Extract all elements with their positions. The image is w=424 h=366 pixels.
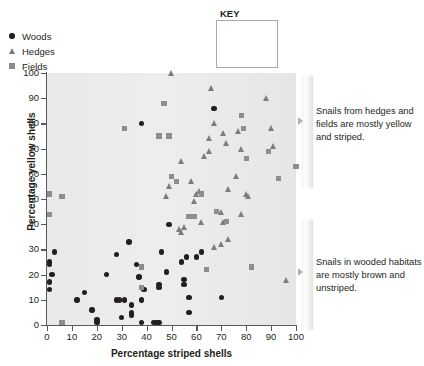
x-tick xyxy=(246,326,247,331)
x-tick xyxy=(122,326,123,331)
x-tick-label: 20 xyxy=(85,332,109,342)
x-tick-label: 60 xyxy=(184,332,208,342)
x-tick xyxy=(147,326,148,331)
x-tick xyxy=(196,326,197,331)
x-tick xyxy=(221,326,222,331)
x-tick-label: 70 xyxy=(209,332,233,342)
legend-item-fields[interactable]: Fields xyxy=(6,60,47,72)
x-tick-label: 40 xyxy=(135,332,159,342)
square-icon xyxy=(6,63,18,68)
y-tick xyxy=(41,249,46,250)
y-tick xyxy=(41,199,46,200)
x-tick xyxy=(296,326,297,331)
annotation-hedges-fields: Snails from hedges and fields are mostly… xyxy=(316,105,424,144)
y-tick xyxy=(41,149,46,150)
x-tick-label: 80 xyxy=(234,332,258,342)
circle-icon xyxy=(6,33,18,38)
y-tick xyxy=(41,275,46,276)
y-tick xyxy=(41,98,46,99)
annotation-woods: Snails in wooded habitats are mostly bro… xyxy=(316,256,424,295)
legend-box xyxy=(216,20,278,68)
y-tick xyxy=(41,300,46,301)
legend-item-woods[interactable]: Woods xyxy=(6,30,51,42)
x-tick xyxy=(97,326,98,331)
x-tick xyxy=(72,326,73,331)
plot-area xyxy=(47,73,296,325)
x-tick-label: 90 xyxy=(259,332,283,342)
callout-arrow-bottom xyxy=(298,268,303,276)
legend-item-label: Fields xyxy=(22,61,47,72)
y-tick-label: 10 xyxy=(13,295,39,305)
y-tick xyxy=(41,325,46,326)
y-tick-label: 0 xyxy=(13,320,39,330)
x-tick xyxy=(172,326,173,331)
x-tick-label: 50 xyxy=(160,332,184,342)
y-tick xyxy=(41,73,46,74)
callout-arrow-top xyxy=(298,117,303,125)
x-tick-label: 30 xyxy=(110,332,134,342)
y-tick-label: 20 xyxy=(13,270,39,280)
x-tick xyxy=(271,326,272,331)
y-tick xyxy=(41,174,46,175)
legend-title: KEY xyxy=(218,8,242,19)
y-axis-line xyxy=(46,72,47,326)
x-tick-label: 0 xyxy=(35,332,59,342)
x-axis-title: Percentage striped shells xyxy=(47,348,296,359)
y-tick xyxy=(41,224,46,225)
x-tick-label: 100 xyxy=(284,332,308,342)
legend-item-label: Woods xyxy=(22,31,51,42)
legend-item-label: Hedges xyxy=(22,46,55,57)
callout-bar-top xyxy=(302,76,313,188)
x-tick xyxy=(47,326,48,331)
y-tick xyxy=(41,123,46,124)
y-axis-title: Percentage yellow shells xyxy=(26,77,37,267)
triangle-icon xyxy=(6,48,18,54)
x-tick-label: 10 xyxy=(60,332,84,342)
legend-item-hedges[interactable]: Hedges xyxy=(6,45,55,57)
callout-bar-bottom xyxy=(302,220,313,330)
